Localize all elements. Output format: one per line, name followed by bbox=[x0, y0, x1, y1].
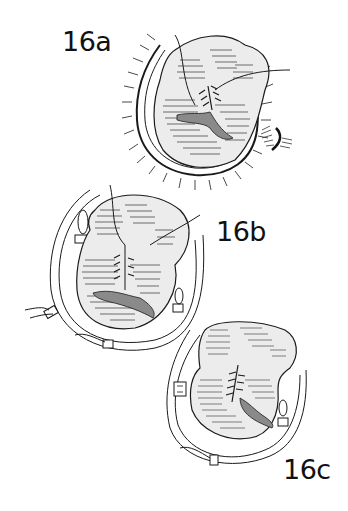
tissue-fragment-icon bbox=[258, 122, 298, 156]
panel-label-16b: 16b bbox=[216, 218, 266, 245]
illustration-16a bbox=[115, 20, 305, 195]
panel-label-16c: 16c bbox=[283, 456, 331, 483]
valve-illustration-16c bbox=[160, 320, 310, 470]
valve-illustration-16a bbox=[115, 20, 305, 195]
illustration-16c bbox=[160, 320, 310, 470]
panel-label-16a: 16a bbox=[62, 28, 111, 55]
